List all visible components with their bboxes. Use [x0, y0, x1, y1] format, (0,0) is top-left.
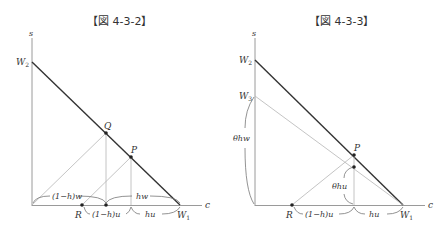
brace-theta-hw-label: θhw — [233, 134, 250, 143]
line-w3-w1 — [255, 96, 403, 205]
diagram-4-3-2: s c W2 W1 Q P R (1−h)w hw (1−h)u hu — [0, 0, 223, 230]
c-axis-label: c — [428, 200, 433, 210]
w1-label: W1 — [400, 210, 413, 221]
w1-label: W1 — [177, 210, 190, 221]
w2-label: W2 — [239, 55, 252, 66]
point-w3-line — [352, 165, 356, 169]
point-p — [129, 155, 133, 159]
r-label: R — [285, 210, 293, 220]
brace-theta-hw — [245, 97, 254, 204]
r-label: R — [74, 210, 82, 220]
brace-hu — [131, 207, 180, 214]
brace-1-h-u-label: (1−h)u — [305, 210, 333, 219]
point-q-foot — [104, 203, 108, 207]
point-r — [290, 203, 294, 207]
brace-theta-hu-label: θhu — [332, 182, 347, 191]
brace-hw-label: hw — [136, 192, 148, 201]
s-axis-label: s — [29, 29, 33, 38]
brace-hu-label: hu — [145, 210, 155, 219]
w3-label: W3 — [239, 91, 252, 102]
brace-1-h-w-label: (1−h)w — [52, 192, 82, 201]
q-label: Q — [104, 121, 112, 131]
point-p — [352, 153, 356, 157]
point-r — [80, 203, 84, 207]
figure-4-3-3: 【図 4-3-3】 s c W2 W3 W1 P R θhw θhu (1−h)… — [223, 0, 446, 230]
diagram-4-3-3: s c W2 W3 W1 P R θhw θhu (1−h)u hu — [223, 0, 446, 230]
guide-r-p — [82, 157, 131, 205]
p-label: P — [130, 145, 138, 155]
p-label: P — [353, 143, 361, 153]
brace-hu-label: hu — [369, 210, 379, 219]
point-q — [104, 131, 108, 135]
w2-label: W2 — [16, 57, 29, 68]
brace-1-h-u-label: (1−h)u — [92, 210, 120, 219]
s-axis-label: s — [252, 29, 256, 38]
budget-line — [255, 60, 403, 205]
c-axis-label: c — [205, 200, 210, 210]
figure-4-3-2: 【図 4-3-2】 s c W2 W1 Q P R (1−h)w hw (1−h… — [0, 0, 223, 230]
